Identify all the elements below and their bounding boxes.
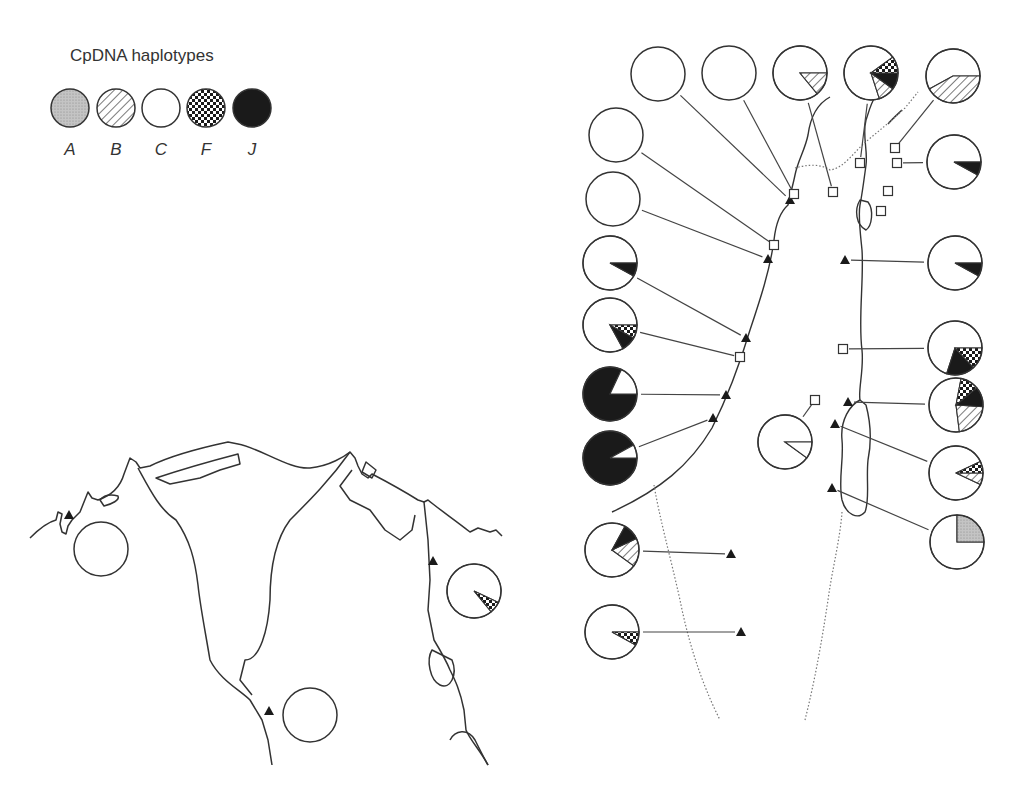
leader-line [640, 332, 734, 355]
border-west [654, 485, 720, 720]
right-river-north [888, 110, 902, 124]
right-river-jordan [859, 97, 875, 400]
haplotype-pie [583, 431, 637, 485]
leader-line [639, 420, 708, 447]
haplotype-pie [631, 47, 685, 101]
haplotype-pie [929, 446, 983, 500]
population-square-icon [736, 353, 745, 362]
haplotype-pie [926, 49, 980, 103]
haplotype-pie [447, 564, 501, 618]
population-triangle-icon [830, 419, 840, 428]
legend-swatch-b [97, 89, 135, 127]
left-map-outline [30, 442, 502, 765]
haplotype-pie [758, 415, 812, 469]
leader-line [641, 394, 720, 395]
leader-line [838, 490, 929, 529]
right-site [893, 135, 982, 189]
left-site [428, 556, 501, 618]
haplotype-pie [930, 515, 984, 569]
legend-swatch-c [142, 89, 180, 127]
haplotype-pie [589, 108, 643, 162]
population-triangle-icon [827, 483, 837, 492]
legend-label-b: B [106, 140, 126, 160]
right-site [884, 187, 893, 196]
leader-line [849, 348, 924, 349]
legend-label-j: J [242, 140, 262, 160]
right-site [843, 378, 983, 432]
population-square-icon [891, 144, 900, 153]
population-square-icon [856, 159, 865, 168]
leader-line [641, 153, 769, 242]
population-triangle-icon [726, 549, 736, 558]
right-site [583, 298, 745, 362]
left-site [264, 688, 337, 742]
haplotype-pie [585, 605, 639, 659]
border-east [805, 512, 842, 720]
right-map-borders [654, 92, 918, 720]
left-lake-east [429, 650, 454, 686]
legend-swatch-j [233, 89, 271, 127]
legend [51, 89, 271, 127]
leader-line [680, 95, 785, 195]
population-triangle-icon [741, 333, 751, 342]
leader-line [744, 100, 791, 188]
population-triangle-icon [64, 510, 74, 519]
haplotype-pie [928, 321, 982, 375]
population-triangle-icon [264, 706, 274, 715]
leader-line [899, 100, 934, 143]
leader-line [637, 278, 741, 335]
haplotype-pie [702, 46, 756, 100]
haplotype-pie [283, 688, 337, 742]
population-square-icon [770, 241, 779, 250]
population-square-icon [790, 190, 799, 199]
haplotype-pie [583, 367, 637, 421]
haplotype-pie [74, 522, 128, 576]
population-square-icon [829, 188, 838, 197]
haplotype-pie [929, 378, 983, 432]
leader-line [808, 103, 831, 186]
leader-line [803, 405, 811, 417]
population-square-icon [811, 396, 820, 405]
left-river-middle [240, 452, 350, 695]
right-site [891, 49, 981, 153]
population-square-icon [877, 207, 886, 216]
left-river-delta [340, 470, 415, 540]
haplotype-pie [583, 236, 637, 290]
haplotype-pie [586, 172, 640, 226]
left-river-east [424, 502, 488, 765]
right-site [839, 321, 983, 375]
haplotype-map-figure [0, 0, 1011, 789]
haplotype-pie [773, 46, 827, 100]
haplotype-pie [585, 523, 639, 577]
legend-swatch-f [187, 89, 225, 127]
legend-swatch-a [51, 89, 89, 127]
legend-label-c: C [151, 140, 171, 160]
left-river-west [138, 468, 272, 765]
haplotype-pie [927, 135, 981, 189]
right-site [585, 523, 736, 577]
leader-line [643, 551, 725, 554]
right-site [583, 367, 731, 421]
population-triangle-icon [721, 390, 731, 399]
population-square-icon [884, 187, 893, 196]
legend-label-a: A [60, 140, 80, 160]
right-site [585, 605, 746, 659]
legend-title: CpDNA haplotypes [70, 46, 214, 66]
population-triangle-icon [843, 397, 853, 406]
legend-label-f: F [196, 140, 216, 160]
left-site [64, 510, 128, 576]
right-site [758, 396, 820, 470]
haplotype-pie [928, 236, 982, 290]
leader-line [841, 426, 928, 461]
haplotype-pie [583, 298, 637, 352]
population-square-icon [839, 345, 848, 354]
population-triangle-icon [840, 255, 850, 264]
right-site [877, 207, 886, 216]
population-triangle-icon [736, 627, 746, 636]
population-square-icon [893, 159, 902, 168]
haplotype-pie [844, 46, 898, 100]
left-lagoon-1 [100, 495, 118, 506]
leader-line [642, 210, 762, 257]
